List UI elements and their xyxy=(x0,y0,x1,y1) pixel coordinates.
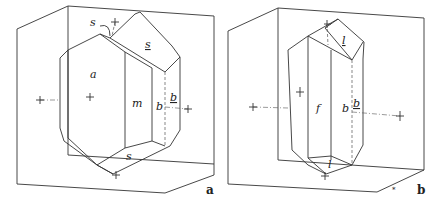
axis-cross-bottom-a xyxy=(112,171,120,179)
bottom-edge-a xyxy=(68,138,165,165)
face-label-s-underlined: s xyxy=(145,38,151,51)
figure-a: a m b b s s s a xyxy=(17,6,214,197)
axis-cross-left-b xyxy=(249,103,257,111)
face-label-s-pointer: s xyxy=(90,16,96,29)
crystal-outline-a xyxy=(60,12,180,174)
axis-cross-right-a xyxy=(184,105,192,113)
axis-left-b xyxy=(253,107,288,108)
face-label-s-bottom: s xyxy=(126,150,132,163)
figure-caption-a: a xyxy=(206,183,214,197)
face-label-b-underlined: b xyxy=(170,91,177,104)
face-label-b: b xyxy=(156,100,163,113)
edge-b4 xyxy=(352,42,363,60)
figure-caption-b: b xyxy=(417,183,425,197)
axis-cross-right-b xyxy=(396,111,404,121)
edge-a5 xyxy=(125,52,152,68)
axis-right-b xyxy=(352,112,400,116)
face-label-m: m xyxy=(132,97,142,110)
box-outline-b xyxy=(228,8,424,192)
face-label-f: f xyxy=(315,102,322,115)
edge-a7 xyxy=(165,57,180,72)
face-label-a: a xyxy=(90,68,97,81)
box-outline-a xyxy=(17,6,214,193)
edge-a2 xyxy=(100,34,125,52)
axis-cross-left-a xyxy=(36,96,44,104)
edge-a8 xyxy=(97,165,113,174)
face-label-l-underlined: l xyxy=(342,34,346,47)
face-label-b: b xyxy=(342,102,349,115)
figure-b: f b b l l * b xyxy=(228,8,425,197)
axis-cross-center-a xyxy=(86,93,94,101)
edge-b3 xyxy=(325,28,352,60)
crystal-diagram: a m b b s s s a f b b l xyxy=(0,0,443,207)
face-label-l-bottom: l xyxy=(328,158,332,171)
small-mark: * xyxy=(392,186,396,194)
face-label-b-underlined: b xyxy=(353,97,360,110)
axis-cross-center-b xyxy=(296,87,304,97)
edge-a3 xyxy=(110,38,165,72)
